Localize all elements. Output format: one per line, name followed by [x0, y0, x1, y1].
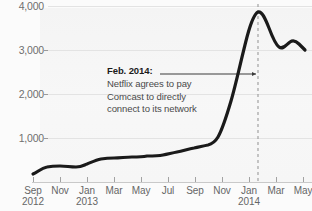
annotation-body-line-3: connect to its network	[107, 103, 203, 115]
annotation-body-line-2: Comcast to directly	[107, 91, 203, 103]
annotation-block: Feb. 2014: Netflix agrees to pay Comcast…	[107, 65, 203, 115]
chart-container: 4,000 3,000 2,000 1,000 Sep Nov Jan Mar …	[0, 0, 312, 211]
annotation-body-line-1: Netflix agrees to pay	[107, 78, 203, 90]
annotation-title: Feb. 2014:	[107, 65, 203, 77]
